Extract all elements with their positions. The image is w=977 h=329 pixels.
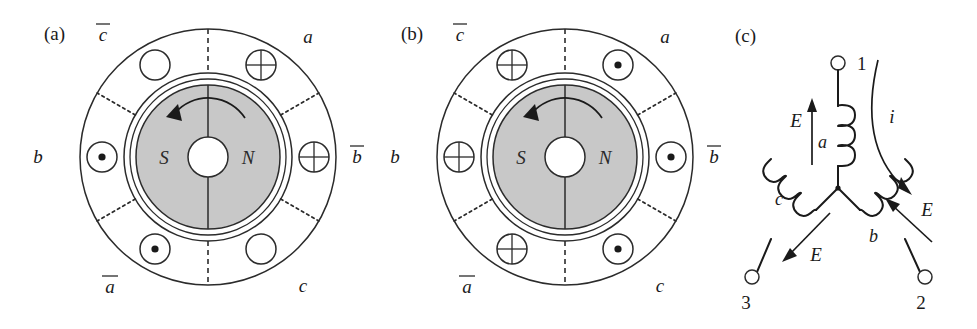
stator-divider-nw-b bbox=[454, 93, 492, 115]
panel-b: (b) bbox=[390, 23, 721, 297]
coil-a-label: a bbox=[818, 132, 827, 152]
terminal-3-node bbox=[745, 270, 759, 284]
phase-label-a-bar-b: a bbox=[459, 276, 475, 297]
phase-label-b-a: b bbox=[33, 146, 43, 167]
slot-right-b bbox=[656, 142, 686, 172]
stator-divider-ne-a bbox=[281, 93, 319, 115]
figure-canvas: (a) bbox=[0, 0, 977, 329]
emf-label-a: E bbox=[789, 110, 802, 131]
emf-arrow-b: E bbox=[885, 198, 933, 242]
pole-label-n-b: N bbox=[598, 147, 613, 168]
emf-label-c: E bbox=[809, 244, 822, 265]
emf-label-b: E bbox=[920, 199, 933, 220]
stator-divider-se-a bbox=[281, 199, 319, 221]
svg-text:c: c bbox=[99, 24, 108, 45]
panel-a-tag: (a) bbox=[44, 23, 65, 45]
stator-divider-se-b bbox=[638, 199, 676, 221]
slot-top-right-a bbox=[246, 50, 276, 80]
pole-label-n-a: N bbox=[241, 147, 256, 168]
phase-label-c-bar-b: c bbox=[453, 24, 467, 45]
slot-top-left-b bbox=[497, 50, 527, 80]
svg-text:a: a bbox=[462, 276, 472, 297]
rotor-shaft-b bbox=[545, 137, 585, 177]
terminal-1-node bbox=[831, 56, 845, 70]
phase-label-a-b: a bbox=[660, 26, 670, 47]
svg-text:b: b bbox=[352, 146, 362, 167]
slot-bottom-left-b bbox=[497, 234, 527, 264]
phase-label-b-b: b bbox=[390, 146, 400, 167]
current-label: i bbox=[889, 106, 894, 127]
terminal-1-label: 1 bbox=[857, 53, 867, 74]
stator-divider-sw-a bbox=[97, 199, 135, 221]
emf-arrow-a: E bbox=[789, 98, 817, 165]
terminal-3-label: 3 bbox=[741, 292, 751, 313]
panel-b-tag: (b) bbox=[401, 23, 423, 45]
phase-label-a-a: a bbox=[303, 26, 313, 47]
figure-root: (a) bbox=[0, 0, 977, 329]
svg-text:c: c bbox=[456, 24, 465, 45]
panel-a: (a) bbox=[33, 23, 364, 297]
phase-label-a-bar-a: a bbox=[102, 276, 118, 297]
svg-text:b: b bbox=[709, 146, 719, 167]
stator-divider-sw-b bbox=[454, 199, 492, 221]
coil-a-branch: a bbox=[818, 70, 855, 188]
slot-right-a bbox=[299, 142, 329, 172]
phase-label-c-bar-a: c bbox=[96, 24, 110, 45]
phase-label-c-a: c bbox=[299, 275, 308, 296]
pole-label-s-b: S bbox=[516, 147, 526, 168]
emf-arrow-c: E bbox=[782, 213, 830, 265]
coil-c-branch: c bbox=[757, 159, 838, 272]
rotor-shaft-a bbox=[188, 137, 228, 177]
phase-label-b-bar-a: b bbox=[350, 146, 364, 167]
phase-label-c-b: c bbox=[656, 275, 665, 296]
slot-top-right-b bbox=[603, 50, 633, 80]
phase-label-b-bar-b: b bbox=[707, 146, 721, 167]
stator-divider-ne-b bbox=[638, 93, 676, 115]
coil-b-label: b bbox=[869, 226, 878, 246]
panel-c: (c) 1 a c 3 bbox=[735, 25, 933, 313]
stator-divider-nw-a bbox=[97, 93, 135, 115]
slot-left-a bbox=[87, 142, 117, 172]
terminal-2-node bbox=[918, 270, 932, 284]
current-arrow: i bbox=[872, 60, 912, 195]
slot-top-left-a bbox=[140, 50, 170, 80]
slot-bottom-right-b bbox=[603, 234, 633, 264]
svg-text:a: a bbox=[105, 276, 115, 297]
coil-b-branch: b bbox=[838, 159, 920, 272]
slot-bottom-left-a bbox=[140, 234, 170, 264]
coil-c-label: c bbox=[775, 189, 783, 209]
pole-label-s-a: S bbox=[159, 147, 169, 168]
terminal-2-label: 2 bbox=[916, 292, 926, 313]
panel-c-tag: (c) bbox=[735, 25, 756, 47]
slot-bottom-right-a bbox=[246, 234, 276, 264]
slot-left-b bbox=[444, 142, 474, 172]
